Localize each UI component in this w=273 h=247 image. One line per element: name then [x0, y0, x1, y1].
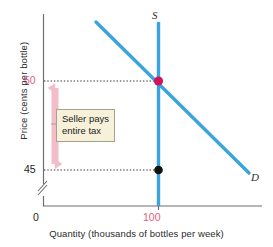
callout-line-2: entire tax: [62, 125, 109, 137]
chart-canvas: [0, 0, 273, 247]
supply-curve-label: S: [152, 10, 158, 21]
y-axis-break-icon: [38, 181, 47, 195]
seller-pays-callout: Seller pays entire tax: [56, 109, 115, 142]
equilibrium-point[interactable]: [154, 76, 163, 85]
y-tick-label-45: 45: [24, 164, 36, 175]
demand-curve-label: D: [251, 172, 259, 183]
x-axis-title: Quantity (thousands of bottles per week): [0, 229, 273, 239]
demand-curve[interactable]: [96, 22, 249, 173]
y-axis-title: Price (cents per bottle): [19, 21, 29, 161]
seller-price-point[interactable]: [154, 166, 163, 175]
callout-line-1: Seller pays: [62, 113, 109, 125]
supply-demand-chart: Price (cents per bottle) Quantity (thous…: [0, 0, 273, 247]
origin-label-0: 0: [33, 212, 39, 223]
x-tick-label-100: 100: [143, 212, 161, 223]
y-tick-label-50: 50: [24, 75, 36, 86]
